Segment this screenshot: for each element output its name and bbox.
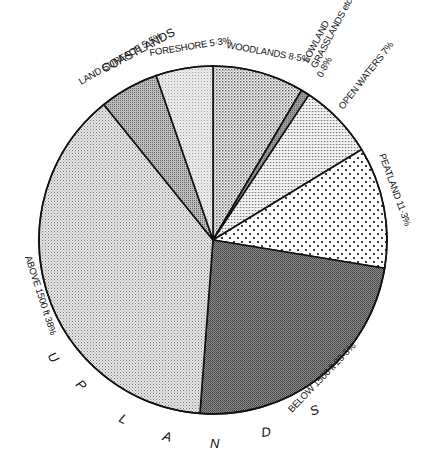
uplands-letter-l: L — [117, 411, 131, 428]
uplands-letter-d: D — [260, 424, 271, 440]
uplands-letter-n: N — [210, 436, 220, 451]
woodlands-label: WOODLANDS 8·5% — [226, 39, 312, 65]
uplands-letter-a: A — [160, 428, 173, 445]
open-waters-label: OPEN WATERS 7% — [336, 39, 396, 112]
uplands-letter-u: U — [45, 349, 63, 366]
uplands-letter-s: S — [308, 402, 322, 419]
pie-chart: COASTLANDS LAND SURFACE 5·5% FORESHORE 5… — [0, 0, 426, 473]
uplands-letter-p: P — [73, 377, 90, 394]
pie-slice-below-1500-ft — [200, 240, 385, 414]
